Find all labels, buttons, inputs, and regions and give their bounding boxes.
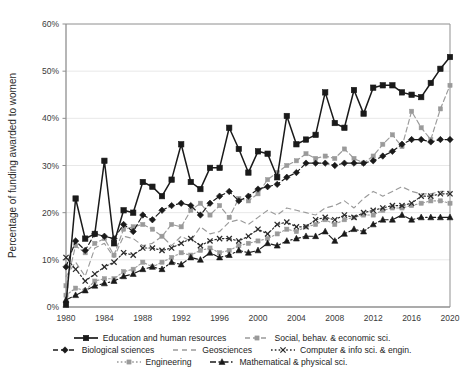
series-line — [66, 187, 450, 277]
data-point-marker — [322, 228, 328, 234]
figure-container: 0%10%20%30%40%50%60%19801984198819921996… — [0, 0, 463, 389]
data-point-marker — [92, 271, 97, 276]
x-tick-label: 2004 — [287, 313, 306, 323]
x-tick-label: 1984 — [95, 313, 114, 323]
data-point-marker — [370, 158, 376, 164]
chart-plot-area: 0%10%20%30%40%50%60%19801984198819921996… — [0, 0, 463, 330]
data-point-marker — [332, 120, 337, 125]
data-point-marker — [227, 125, 232, 130]
y-tick-label: 60% — [42, 19, 59, 29]
data-point-marker — [63, 264, 69, 270]
legend-item[interactable]: Geosciences — [172, 345, 252, 355]
y-tick-label: 50% — [42, 66, 59, 76]
legend-item[interactable]: Education and human resources — [73, 333, 227, 343]
data-point-marker — [294, 229, 298, 233]
data-point-marker — [294, 224, 299, 229]
data-point-marker — [255, 247, 261, 253]
series-path — [66, 57, 450, 305]
y-tick-label: 0% — [47, 302, 60, 312]
data-point-marker — [73, 267, 78, 272]
legend-label: Geosciences — [202, 345, 252, 355]
data-point-marker — [323, 154, 327, 158]
legend-swatch-square-icon — [73, 333, 99, 343]
data-point-marker — [304, 152, 308, 156]
data-point-marker — [418, 136, 424, 142]
data-point-marker — [83, 236, 88, 241]
data-point-marker — [93, 241, 97, 245]
legend-row: EngineeringMathematical & physical sci. — [116, 357, 348, 367]
legend-item[interactable]: Engineering — [116, 357, 192, 367]
legend-swatch-x-icon — [270, 345, 296, 355]
y-axis-ticks: 0%10%20%30%40%50%60% — [42, 19, 66, 312]
data-point-marker — [255, 336, 259, 340]
data-point-marker — [342, 147, 346, 151]
legend-swatch-square-small-icon — [116, 357, 142, 367]
data-point-marker — [266, 178, 270, 182]
line-chart-svg: 0%10%20%30%40%50%60%19801984198819921996… — [0, 0, 463, 330]
x-tick-label: 1996 — [210, 313, 229, 323]
data-point-marker — [285, 163, 289, 167]
data-point-marker — [160, 260, 164, 264]
data-point-marker — [351, 226, 357, 232]
data-point-marker — [74, 286, 78, 290]
data-point-marker — [342, 218, 346, 222]
data-point-marker — [381, 142, 385, 146]
data-point-marker — [83, 335, 88, 340]
data-point-marker — [121, 208, 126, 213]
data-point-marker — [275, 232, 279, 236]
data-point-marker — [150, 227, 154, 231]
data-point-marker — [102, 158, 107, 163]
data-point-marker — [313, 233, 319, 239]
data-point-marker — [236, 146, 241, 151]
data-point-marker — [275, 175, 280, 180]
data-point-marker — [198, 201, 202, 205]
x-tick-label: 2020 — [441, 313, 460, 323]
data-point-marker — [131, 210, 136, 215]
data-point-marker — [333, 156, 337, 160]
y-tick-label: 40% — [42, 113, 59, 123]
data-point-marker — [399, 90, 404, 95]
data-point-marker — [168, 202, 174, 208]
data-point-marker — [351, 87, 356, 92]
data-point-marker — [217, 236, 222, 241]
x-axis-ticks: 1980198419881992199620002004200820122016… — [57, 313, 460, 323]
legend-item[interactable]: Biological sciences — [52, 345, 155, 355]
data-point-marker — [303, 137, 308, 142]
series-path — [66, 187, 450, 277]
legend-item[interactable]: Social, behav. & economic sci. — [244, 333, 390, 343]
data-point-marker — [408, 136, 414, 142]
data-point-marker — [160, 234, 164, 238]
data-point-marker — [410, 109, 414, 113]
data-point-marker — [198, 186, 203, 191]
data-point-marker — [294, 142, 299, 147]
data-point-marker — [284, 220, 289, 225]
data-point-marker — [256, 239, 260, 243]
data-point-marker — [255, 149, 260, 154]
legend-item[interactable]: Computer & info sci. & engin. — [270, 345, 411, 355]
data-point-marker — [170, 222, 174, 226]
data-point-marker — [83, 278, 88, 283]
data-point-marker — [447, 136, 453, 142]
data-point-marker — [419, 94, 424, 99]
data-point-marker — [246, 234, 251, 239]
x-tick-label: 2012 — [364, 313, 383, 323]
data-point-marker — [429, 199, 433, 203]
data-point-marker — [141, 222, 145, 226]
data-point-marker — [285, 227, 289, 231]
data-point-marker — [111, 260, 116, 265]
data-point-marker — [112, 253, 116, 257]
data-point-marker — [332, 217, 337, 222]
legend-label: Engineering — [146, 357, 192, 367]
data-point-marker — [141, 260, 145, 264]
data-point-marker — [264, 184, 270, 190]
data-point-marker — [159, 193, 164, 198]
legend-label: Biological sciences — [82, 345, 155, 355]
legend-row: Biological sciencesGeosciencesComputer &… — [52, 345, 412, 355]
data-point-marker — [255, 227, 260, 232]
legend-label: Social, behav. & economic sci. — [274, 333, 390, 343]
data-point-marker — [419, 126, 423, 130]
data-point-marker — [342, 125, 347, 130]
data-point-marker — [227, 215, 231, 219]
data-point-marker — [294, 159, 298, 163]
legend-item[interactable]: Mathematical & physical sci. — [209, 357, 347, 367]
